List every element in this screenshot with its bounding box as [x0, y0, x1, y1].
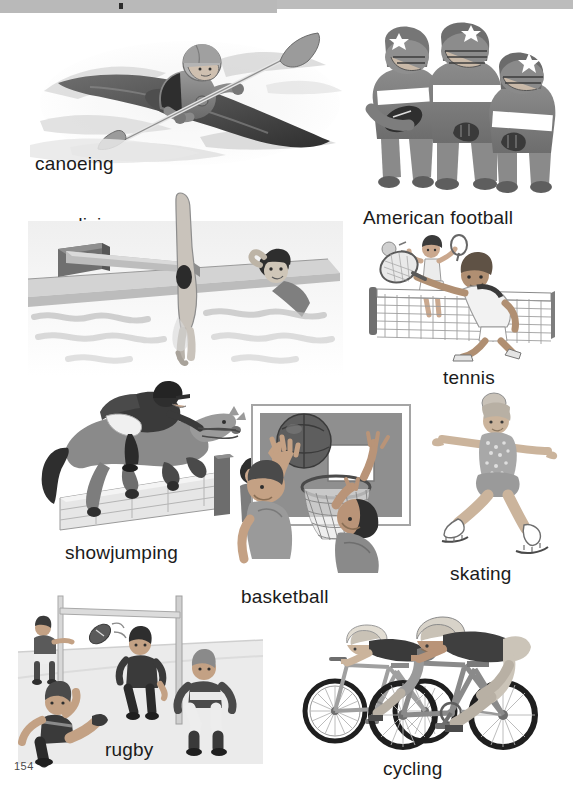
caption-canoeing: canoeing [35, 153, 114, 175]
basketball-illustration [232, 401, 424, 573]
dictionary-page: canoeing [0, 13, 573, 791]
football-player-right [489, 53, 555, 193]
caption-tennis: tennis [443, 367, 495, 389]
rugby-ball [86, 620, 126, 648]
tennis-player-near [376, 246, 521, 361]
cycling-illustration [295, 615, 547, 747]
diving-illustration [28, 221, 343, 376]
header-bar [0, 0, 277, 13]
caption-rugby: rugby [105, 739, 154, 761]
header-tick-mark [119, 3, 123, 9]
skating-illustration [424, 391, 569, 556]
figure-skater [432, 393, 557, 553]
tennis-illustration [355, 231, 570, 356]
american-football-illustration [357, 27, 567, 192]
caption-cycling: cycling [383, 758, 442, 780]
caption-showjumping: showjumping [65, 542, 178, 564]
caption-skating: skating [450, 563, 512, 585]
header-bar-right [277, 0, 573, 9]
football-player-left [371, 27, 440, 188]
caption-american-football: American football [363, 207, 513, 229]
page-number: 154 [14, 760, 34, 772]
